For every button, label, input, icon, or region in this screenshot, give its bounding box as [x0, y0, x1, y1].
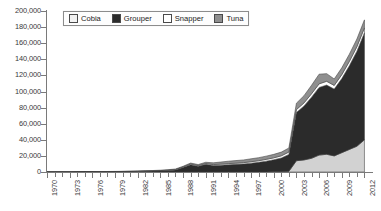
y-axis-tick [41, 27, 46, 28]
x-axis-tick-label: 1985 [164, 180, 173, 196]
x-axis-tick [191, 173, 192, 177]
y-axis-tick [41, 140, 46, 141]
x-axis-tick-label: 1973 [73, 180, 82, 196]
y-axis-tick-label: 120,000 [0, 71, 41, 79]
x-axis-tick [153, 173, 154, 177]
y-axis-tick [41, 75, 46, 76]
stacked-area-chart: 200,000180,000160,000140,000120,000100,0… [0, 0, 381, 211]
y-axis-tick-label: 80,000 [0, 104, 41, 112]
legend-item-grouper[interactable]: Grouper [112, 14, 152, 23]
x-axis-tick-label: 1979 [118, 180, 127, 196]
chart-legend: CobiaGrouperSnapperTuna [63, 11, 249, 26]
x-axis-tick [123, 173, 124, 177]
x-axis-tick [47, 173, 48, 178]
x-axis-tick [183, 173, 184, 178]
x-axis-tick-label: 1997 [254, 180, 263, 196]
y-axis-tick-label: 100,000 [0, 88, 41, 96]
legend-swatch-icon [112, 14, 121, 23]
area-series-grouper [47, 33, 364, 172]
x-axis-tick-label: 2000 [277, 180, 286, 196]
x-axis-tick [77, 173, 78, 177]
x-axis-tick-label: 2006 [322, 180, 331, 196]
y-axis-tick [41, 124, 46, 125]
x-axis-tick [92, 173, 93, 178]
y-axis-tick [41, 172, 46, 173]
x-axis-tick [168, 173, 169, 177]
x-axis-tick [130, 173, 131, 177]
x-axis-tick [100, 173, 101, 177]
x-axis-tick [70, 173, 71, 178]
legend-swatch-icon [163, 14, 172, 23]
x-axis-tick [342, 173, 343, 178]
x-axis-tick [296, 173, 297, 178]
x-axis-tick [145, 173, 146, 177]
legend-item-cobia[interactable]: Cobia [69, 14, 101, 23]
x-axis-tick [274, 173, 275, 178]
legend-item-snapper[interactable]: Snapper [163, 14, 204, 23]
x-axis-tick [259, 173, 260, 177]
x-axis-tick [221, 173, 222, 177]
x-axis-tick [236, 173, 237, 177]
x-axis-tick [228, 173, 229, 178]
plot-area [47, 11, 372, 172]
y-axis-tick-label: 200,000 [0, 7, 41, 15]
x-axis-tick [85, 173, 86, 177]
legend-swatch-icon [214, 14, 223, 23]
y-axis-labels: 200,000180,000160,000140,000120,000100,0… [0, 0, 41, 211]
legend-swatch-icon [69, 14, 78, 23]
legend-label: Snapper [175, 14, 204, 23]
y-axis-tick [41, 92, 46, 93]
x-axis-tick [55, 173, 56, 177]
x-axis-tick [312, 173, 313, 177]
x-axis-tick [138, 173, 139, 178]
y-axis-tick-label: 40,000 [0, 136, 41, 144]
x-axis-tick [319, 173, 320, 178]
y-axis-tick [41, 108, 46, 109]
x-axis-tick [62, 173, 63, 177]
x-axis-tick [251, 173, 252, 178]
x-axis-tick-label: 1994 [232, 180, 241, 196]
x-axis-tick-label: 1976 [96, 180, 105, 196]
y-axis-tick-label: 140,000 [0, 55, 41, 63]
legend-label: Tuna [226, 14, 243, 23]
x-axis-tick [289, 173, 290, 177]
x-axis-tick-label: 1970 [50, 180, 59, 196]
x-axis-tick [364, 173, 365, 178]
x-axis-tick [266, 173, 267, 177]
x-axis-tick [115, 173, 116, 178]
x-axis-tick [160, 173, 161, 178]
x-axis-tick-label: 2009 [345, 180, 354, 196]
y-axis-tick-label: 60,000 [0, 120, 41, 128]
x-axis-tick-label: 1991 [209, 180, 218, 196]
x-axis-tick-label: 2012 [368, 180, 377, 196]
x-axis-tick [206, 173, 207, 178]
x-axis-tick [357, 173, 358, 177]
y-axis-tick [41, 11, 46, 12]
x-axis-tick [107, 173, 108, 177]
y-axis-tick-label: 180,000 [0, 23, 41, 31]
x-axis-tick [281, 173, 282, 177]
x-axis-tick [327, 173, 328, 177]
y-axis-tick [41, 156, 46, 157]
x-axis-line [46, 172, 373, 173]
y-axis-tick-label: 20,000 [0, 152, 41, 160]
legend-item-tuna[interactable]: Tuna [214, 14, 243, 23]
area-series-group [47, 11, 372, 172]
x-axis-tick [349, 173, 350, 177]
x-axis-tick [213, 173, 214, 177]
x-axis-tick [175, 173, 176, 177]
x-axis-tick [304, 173, 305, 177]
legend-label: Grouper [124, 14, 152, 23]
y-axis-tick [41, 59, 46, 60]
x-axis-tick [334, 173, 335, 177]
x-axis-tick-label: 2003 [300, 180, 309, 196]
legend-label: Cobia [81, 14, 101, 23]
y-axis-tick [41, 43, 46, 44]
y-axis-tick-label: 0 [0, 168, 41, 176]
y-axis-tick-label: 160,000 [0, 39, 41, 47]
x-axis-tick-label: 1988 [186, 180, 195, 196]
x-axis-tick [198, 173, 199, 177]
x-axis-tick [244, 173, 245, 177]
x-axis-tick-label: 1982 [141, 180, 150, 196]
